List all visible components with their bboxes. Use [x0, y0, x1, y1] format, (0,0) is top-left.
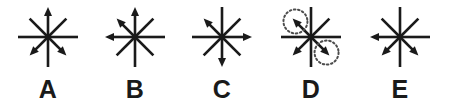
figure-label-d: D: [266, 74, 356, 104]
arrow-star-b: [90, 0, 180, 76]
ray-sw: [34, 37, 48, 51]
ray-ne: [222, 19, 240, 37]
ray-sw: [204, 37, 222, 55]
ray-sw: [297, 37, 311, 51]
ray-nw: [382, 19, 400, 37]
arrow-star-d: [266, 0, 356, 76]
arrowhead-e: [243, 33, 252, 41]
figure-option-b[interactable]: B: [90, 0, 180, 110]
figure-option-c[interactable]: C: [177, 0, 267, 110]
ray-se: [135, 37, 153, 55]
arrow-star-c: [177, 0, 267, 76]
arrow-star-diagram: ABCDE: [0, 0, 453, 110]
ray-sw: [117, 37, 135, 55]
arrowhead-n: [44, 7, 52, 16]
figure-option-d[interactable]: D: [266, 0, 356, 110]
figure-label-c: C: [177, 74, 267, 104]
ray-nw: [121, 23, 135, 37]
figure-option-e[interactable]: E: [355, 0, 445, 110]
figure-label-e: E: [355, 74, 445, 104]
ray-se: [222, 37, 240, 55]
ray-ne: [135, 19, 153, 37]
ray-nw: [30, 19, 48, 37]
ray-ne: [311, 19, 329, 37]
arrowhead-w: [370, 33, 379, 41]
arrow-star-a: [3, 0, 93, 76]
ray-ne: [48, 19, 66, 37]
ray-sw: [386, 37, 400, 51]
figure-label-b: B: [90, 74, 180, 104]
ray-nw: [208, 23, 222, 37]
figure-label-a: A: [3, 74, 93, 104]
ray-se: [48, 37, 62, 51]
arrowhead-n: [131, 7, 139, 16]
ray-se: [400, 37, 414, 51]
arrowhead-w: [105, 33, 114, 41]
ray-ne: [400, 19, 418, 37]
figure-option-a[interactable]: A: [3, 0, 93, 110]
arrow-star-e: [355, 0, 445, 76]
arrowhead-s: [218, 58, 226, 67]
